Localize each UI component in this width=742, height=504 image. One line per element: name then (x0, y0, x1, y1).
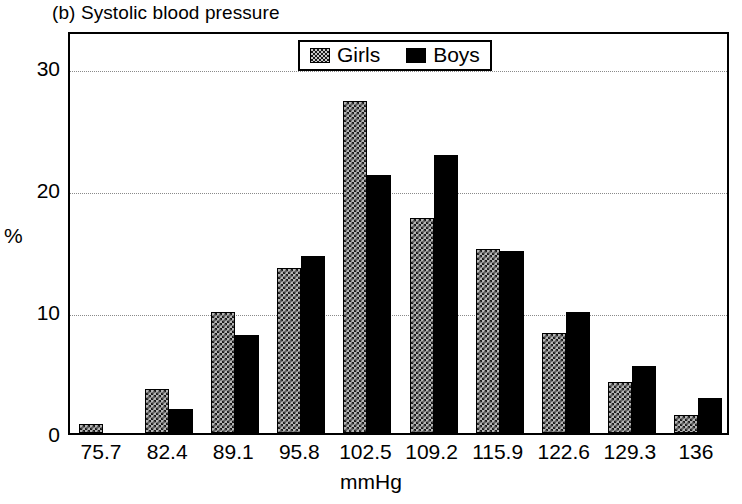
bar-girls-95.8 (277, 268, 301, 433)
x-tick-label-115.9: 115.9 (472, 440, 523, 464)
bar-girls-102.5 (343, 101, 367, 433)
x-axis-tick-labels: 75.782.489.195.8102.5109.2115.9122.6129.… (68, 440, 729, 470)
x-tick-label-136: 136 (678, 440, 713, 464)
bar-boys-109.2 (434, 155, 458, 433)
bar-group (202, 34, 268, 433)
bar-boys-82.4 (169, 409, 193, 433)
y-axis-title: % (4, 225, 23, 246)
bar-group (70, 34, 136, 433)
bar-boys-136 (698, 398, 722, 433)
x-axis-title: mmHg (0, 470, 742, 494)
x-tick-label-102.5: 102.5 (339, 440, 392, 464)
y-tick-label-30: 30 (8, 58, 60, 79)
bar-boys-102.5 (367, 175, 391, 433)
bar-boys-115.9 (500, 251, 524, 433)
bar-group (136, 34, 202, 433)
legend: Girls Boys (298, 40, 492, 71)
bar-boys-129.3 (632, 366, 656, 433)
legend-entry-boys: Boys (406, 44, 480, 66)
legend-label-girls: Girls (337, 44, 380, 66)
bar-girls-115.9 (476, 249, 500, 433)
bar-girls-129.3 (608, 382, 632, 433)
bar-group (665, 34, 731, 433)
bar-group (467, 34, 533, 433)
x-tick-label-129.3: 129.3 (604, 440, 657, 464)
legend-swatch-girls-icon (310, 48, 330, 63)
bar-boys-122.6 (566, 312, 590, 433)
plot-area (68, 32, 729, 435)
bar-girls-109.2 (410, 218, 434, 433)
bar-girls-136 (674, 415, 698, 433)
legend-swatch-boys-icon (406, 48, 426, 63)
y-tick-label-0: 0 (8, 424, 60, 445)
bar-group (599, 34, 665, 433)
x-tick-label-75.7: 75.7 (81, 440, 122, 464)
bar-girls-89.1 (211, 312, 235, 433)
bar-girls-122.6 (542, 333, 566, 433)
bar-girls-75.7 (79, 424, 103, 433)
legend-label-boys: Boys (433, 44, 480, 66)
bar-group (401, 34, 467, 433)
chart-title: (b) Systolic blood pressure (52, 2, 280, 24)
bar-group (334, 34, 400, 433)
x-tick-label-109.2: 109.2 (405, 440, 458, 464)
plot-inner (70, 34, 727, 433)
y-tick-label-20: 20 (8, 180, 60, 201)
legend-entry-girls: Girls (310, 44, 380, 66)
x-tick-label-122.6: 122.6 (537, 440, 590, 464)
bar-group (533, 34, 599, 433)
bar-boys-89.1 (235, 335, 259, 433)
x-tick-label-89.1: 89.1 (213, 440, 254, 464)
bar-girls-82.4 (145, 389, 169, 433)
y-tick-label-10: 10 (8, 302, 60, 323)
bar-group (268, 34, 334, 433)
x-tick-label-95.8: 95.8 (279, 440, 320, 464)
chart-figure: (b) Systolic blood pressure % 0102030 75… (0, 0, 742, 504)
bar-boys-95.8 (301, 256, 325, 433)
x-tick-label-82.4: 82.4 (147, 440, 188, 464)
